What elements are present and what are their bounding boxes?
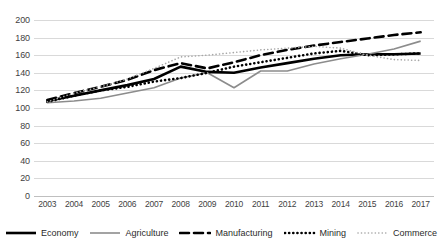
x-tick-label: 2003 (33, 199, 61, 209)
legend-item-economy[interactable]: Economy (5, 228, 79, 238)
legend-swatch-commerce-icon (357, 228, 389, 238)
y-tick-label: 200 (2, 15, 30, 25)
legend-swatch-manufacturing-icon (179, 228, 211, 238)
plot-area (34, 20, 434, 196)
x-tick-label: 2017 (407, 199, 435, 209)
y-tick-label: 100 (2, 103, 30, 113)
y-tick-label: 60 (2, 138, 30, 148)
legend-swatch-economy-icon (5, 228, 37, 238)
legend-item-commerce[interactable]: Commerce (357, 228, 437, 238)
legend-label: Economy (41, 228, 79, 238)
y-tick-label: 120 (2, 85, 30, 95)
y-tick-label: 140 (2, 68, 30, 78)
legend-swatch-mining-icon (284, 228, 316, 238)
legend-label: Commerce (393, 228, 437, 238)
y-tick-label: 180 (2, 33, 30, 43)
legend-label: Agriculture (125, 228, 168, 238)
y-tick-label: 160 (2, 50, 30, 60)
line-chart: 020406080100120140160180200 200320042005… (0, 0, 442, 249)
gridline-0 (34, 196, 434, 197)
chart-legend: EconomyAgricultureManufacturingMiningCom… (0, 228, 442, 238)
legend-item-manufacturing[interactable]: Manufacturing (179, 228, 272, 238)
x-tick-label: 2008 (167, 199, 195, 209)
y-tick-label: 40 (2, 156, 30, 166)
x-tick-label: 2011 (247, 199, 275, 209)
x-tick-label: 2004 (60, 199, 88, 209)
legend-label: Manufacturing (215, 228, 272, 238)
series-line-economy (47, 53, 420, 101)
x-tick-label: 2005 (87, 199, 115, 209)
x-tick-label: 2016 (380, 199, 408, 209)
x-tick-label: 2014 (327, 199, 355, 209)
x-tick-label: 2010 (220, 199, 248, 209)
x-tick-label: 2006 (113, 199, 141, 209)
y-tick-label: 20 (2, 173, 30, 183)
x-tick-label: 2009 (193, 199, 221, 209)
legend-label: Mining (320, 228, 347, 238)
legend-item-mining[interactable]: Mining (284, 228, 347, 238)
x-tick-label: 2007 (140, 199, 168, 209)
x-tick-label: 2012 (273, 199, 301, 209)
y-tick-label: 80 (2, 121, 30, 131)
x-tick-label: 2015 (353, 199, 381, 209)
legend-item-agriculture[interactable]: Agriculture (89, 228, 168, 238)
x-tick-label: 2013 (300, 199, 328, 209)
series-line-mining (47, 51, 420, 102)
legend-swatch-agriculture-icon (89, 228, 121, 238)
series-layer (34, 20, 434, 196)
y-tick-label: 0 (2, 191, 30, 201)
